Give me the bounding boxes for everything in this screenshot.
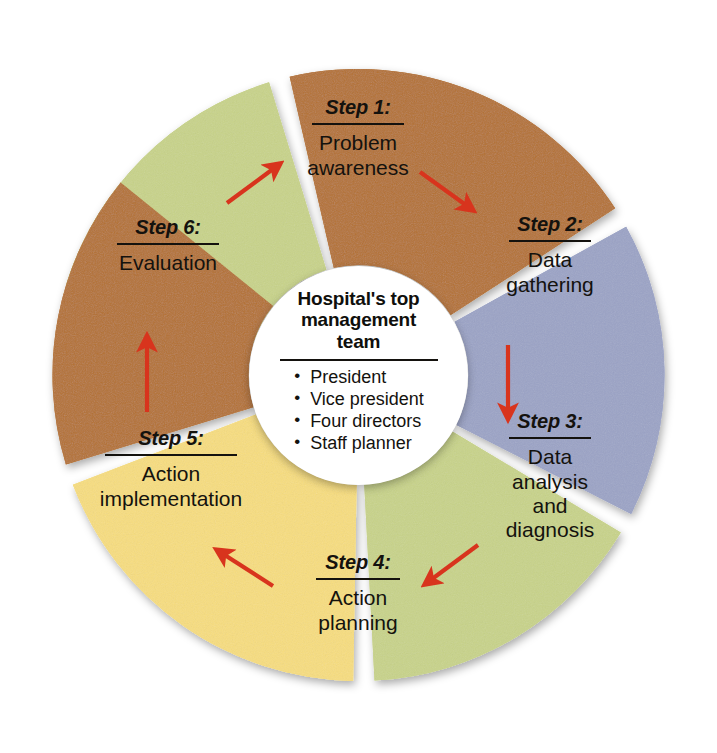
hub-member-list: PresidentVice presidentFour directorsSta… — [293, 367, 424, 455]
hub-title: Hospital's top management team — [297, 288, 419, 352]
center-hub: Hospital's top management team President… — [249, 266, 468, 485]
hub-divider — [280, 359, 438, 361]
hub-member-item: President — [293, 367, 424, 389]
diagram-canvas: Step 1: Problem awareness Step 2: Data g… — [0, 0, 717, 753]
hub-member-item: Staff planner — [293, 433, 424, 455]
hub-member-item: Vice president — [293, 389, 424, 411]
hub-member-item: Four directors — [293, 411, 424, 433]
